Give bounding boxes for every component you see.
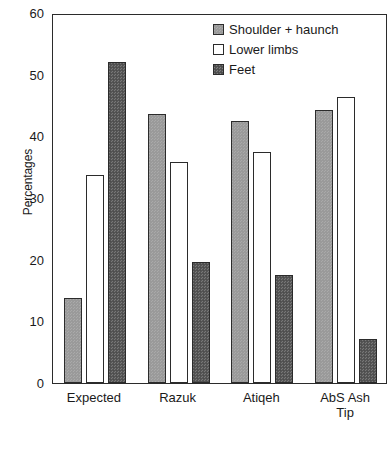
y-tick-label: 0 bbox=[18, 377, 44, 390]
legend-item: Feet bbox=[213, 61, 339, 78]
y-tick-label: 10 bbox=[18, 315, 44, 328]
y-tick-label: 20 bbox=[18, 254, 44, 267]
x-category-label-line: Expected bbox=[52, 390, 136, 405]
y-tick-label: 30 bbox=[18, 192, 44, 205]
x-category-label: AbS AshTip bbox=[303, 390, 387, 420]
x-category-label: Expected bbox=[52, 390, 136, 405]
bar-chart: Percentages 0102030405060 Shoulder + hau… bbox=[0, 0, 392, 457]
x-category-label: Atiqeh bbox=[220, 390, 304, 405]
bar bbox=[108, 62, 126, 383]
x-category-label-line: Razuk bbox=[136, 390, 220, 405]
x-category-label-line: Atiqeh bbox=[220, 390, 304, 405]
bar bbox=[275, 275, 293, 383]
x-category-label: Razuk bbox=[136, 390, 220, 405]
y-axis-tick-labels: 0102030405060 bbox=[18, 0, 44, 457]
x-category-label-line: AbS Ash bbox=[303, 390, 387, 405]
plot-frame: Shoulder + haunchLower limbsFeet bbox=[52, 14, 387, 384]
bar bbox=[231, 121, 249, 383]
bar bbox=[315, 110, 333, 383]
legend-item: Lower limbs bbox=[213, 41, 339, 58]
bar bbox=[192, 262, 210, 383]
y-tick-label: 40 bbox=[18, 130, 44, 143]
x-category-label-line: Tip bbox=[303, 405, 387, 420]
legend-swatch-icon bbox=[213, 24, 224, 35]
bar bbox=[359, 339, 377, 383]
bar bbox=[86, 175, 104, 383]
bar bbox=[337, 97, 355, 383]
legend-item: Shoulder + haunch bbox=[213, 21, 339, 38]
x-axis-category-labels: ExpectedRazukAtiqehAbS AshTip bbox=[52, 390, 387, 440]
y-tick-label: 50 bbox=[18, 69, 44, 82]
legend-swatch-icon bbox=[213, 44, 224, 55]
legend: Shoulder + haunchLower limbsFeet bbox=[213, 21, 339, 78]
bar bbox=[170, 162, 188, 383]
legend-label: Lower limbs bbox=[229, 43, 298, 57]
bar bbox=[64, 298, 82, 383]
legend-label: Shoulder + haunch bbox=[229, 23, 339, 37]
bar bbox=[253, 152, 271, 383]
y-tick-label: 60 bbox=[18, 7, 44, 20]
bar bbox=[148, 114, 166, 383]
legend-swatch-icon bbox=[213, 64, 224, 75]
legend-label: Feet bbox=[229, 63, 255, 77]
